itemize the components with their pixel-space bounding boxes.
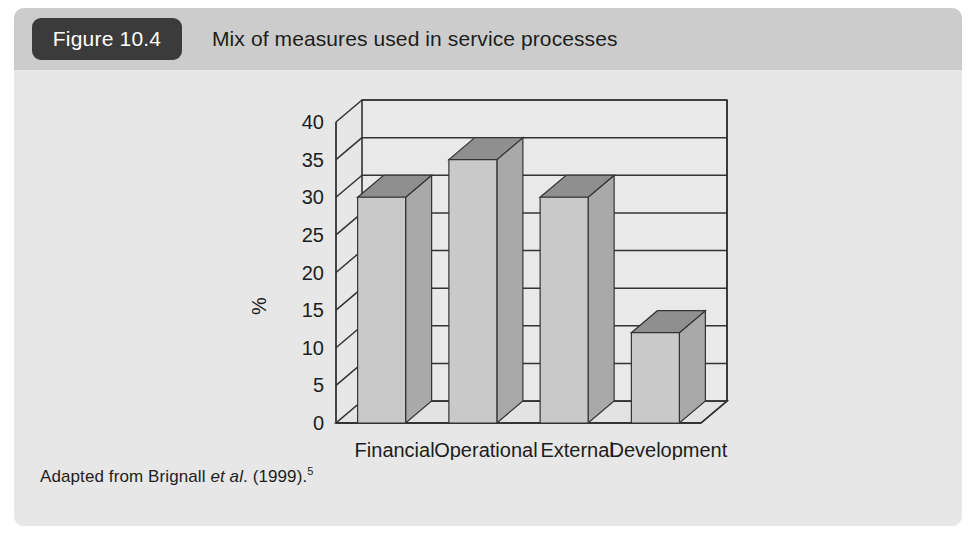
bar-development bbox=[631, 311, 705, 423]
bar-front-face bbox=[540, 197, 588, 423]
figure-number-badge: Figure 10.4 bbox=[32, 18, 182, 60]
source-note: Adapted from Brignall et al. (1999).5 bbox=[40, 465, 313, 487]
bar-side-face bbox=[406, 175, 432, 423]
gridline-connector bbox=[336, 175, 362, 197]
y-axis-tick-label: 20 bbox=[302, 262, 324, 284]
figure-title: Mix of measures used in service processe… bbox=[212, 18, 618, 60]
source-superscript: 5 bbox=[307, 465, 313, 477]
bar-operational bbox=[449, 138, 523, 423]
y-axis-tick-label: 10 bbox=[302, 337, 324, 359]
bar-front-face bbox=[449, 160, 497, 423]
y-axis-tick-label: 40 bbox=[302, 111, 324, 133]
figure-card: Figure 10.4 Mix of measures used in serv… bbox=[14, 8, 962, 526]
x-axis-category-label: Financial bbox=[355, 439, 435, 460]
gridline-connector bbox=[336, 100, 362, 122]
y-axis-tick-label: 5 bbox=[313, 374, 324, 396]
chart-plot-area: 0510152025303540%FinancialOperationalExt… bbox=[14, 70, 962, 460]
y-axis-title: % bbox=[248, 297, 270, 315]
y-axis-tick-label: 15 bbox=[302, 299, 324, 321]
y-axis-tick-label: 0 bbox=[313, 412, 324, 434]
x-axis-category-label: Operational bbox=[434, 439, 537, 460]
bar-financial bbox=[358, 175, 432, 423]
source-prefix: Adapted from Brignall bbox=[40, 467, 210, 486]
y-axis-tick-label: 30 bbox=[302, 186, 324, 208]
bar-front-face bbox=[358, 197, 406, 423]
bar-external bbox=[540, 175, 614, 423]
y-axis-tick-label: 25 bbox=[302, 224, 324, 246]
x-axis-category-label: External bbox=[540, 439, 613, 460]
bar-chart-3d: 0510152025303540%FinancialOperationalExt… bbox=[14, 70, 962, 460]
gridline-connector bbox=[336, 138, 362, 160]
y-axis-tick-label: 35 bbox=[302, 149, 324, 171]
figure-body: 0510152025303540%FinancialOperationalExt… bbox=[14, 70, 962, 526]
bar-side-face bbox=[588, 175, 614, 423]
bar-front-face bbox=[631, 333, 679, 423]
source-suffix: . (1999). bbox=[243, 467, 307, 486]
source-italic: et al bbox=[210, 467, 243, 486]
bar-side-face bbox=[497, 138, 523, 423]
figure-header: Figure 10.4 Mix of measures used in serv… bbox=[14, 8, 962, 70]
x-axis-category-label: Development bbox=[609, 439, 727, 460]
